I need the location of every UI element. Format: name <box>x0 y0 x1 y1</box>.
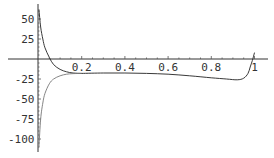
chart: 0.20.40.60.815025-25-50-75-100 <box>0 0 274 158</box>
plot-curves <box>39 9 255 147</box>
axes <box>8 4 268 152</box>
y-tick-label: -50 <box>15 93 35 106</box>
x-tick-label: 0.2 <box>72 61 92 74</box>
tick-labels: 0.20.40.60.815025-25-50-75-100 <box>8 13 258 146</box>
x-tick-label: 1 <box>251 61 258 74</box>
y-tick-label: -25 <box>15 73 35 86</box>
y-tick-label: 50 <box>21 13 34 26</box>
curve-lower-branch <box>39 73 82 147</box>
y-tick-label: -75 <box>15 113 35 126</box>
x-tick-label: 0.8 <box>201 61 221 74</box>
y-tick-label: -100 <box>8 133 35 146</box>
y-tick-label: 25 <box>21 33 34 46</box>
x-tick-label: 0.6 <box>158 61 178 74</box>
x-tick-label: 0.4 <box>115 61 135 74</box>
